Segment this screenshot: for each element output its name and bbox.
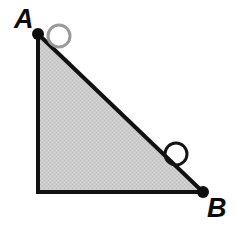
vertex-label-a: A (13, 4, 33, 34)
geometry-figure-canvas: A B (0, 0, 236, 228)
vertex-dot-a (32, 28, 44, 40)
vertex-label-b: B (207, 193, 226, 223)
triangle-diagram-svg: A B (0, 0, 236, 228)
